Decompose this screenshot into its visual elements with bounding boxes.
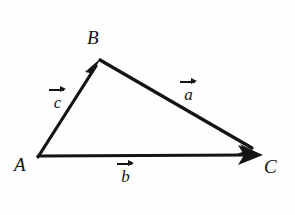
vector-label-a: a bbox=[180, 78, 197, 103]
vector-label-a-glyph: a bbox=[180, 86, 197, 103]
vertex-label-a: A bbox=[14, 155, 26, 174]
vertex-label-c: C bbox=[264, 157, 277, 176]
vector-c-shaft bbox=[38, 66, 96, 157]
overarrow-icon-b bbox=[117, 160, 134, 167]
vector-label-c: c bbox=[49, 86, 66, 111]
vector-label-b-glyph: b bbox=[117, 168, 134, 185]
vector-label-c-glyph: c bbox=[49, 94, 66, 111]
triangle-drawing-canvas bbox=[0, 0, 295, 215]
overarrow-icon-c bbox=[49, 86, 66, 93]
overarrow-icon-a bbox=[180, 78, 197, 85]
vector-b-shaft bbox=[38, 155, 248, 156]
vertex-label-b: B bbox=[87, 28, 99, 47]
vector-a-shaft bbox=[100, 60, 252, 148]
vector-a-arrow bbox=[100, 60, 262, 155]
vector-label-b: b bbox=[117, 160, 134, 185]
vector-triangle-figure: A B C c a b bbox=[0, 0, 295, 215]
vector-b-arrow bbox=[38, 145, 263, 165]
vector-c-arrow bbox=[38, 58, 101, 157]
